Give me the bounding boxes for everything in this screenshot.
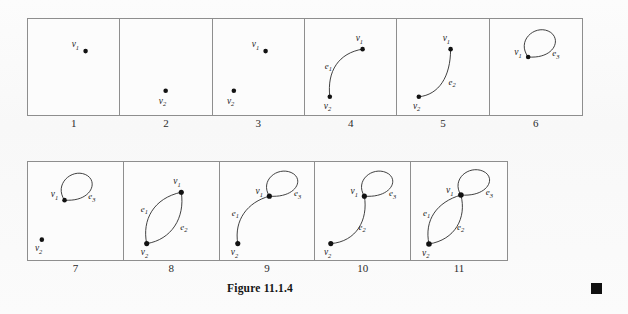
vertex-v2 — [328, 94, 333, 99]
vertex-label-v1: v1 — [443, 33, 450, 44]
panel-number-1: 1 — [28, 115, 119, 131]
bottom-row: v1 e3 v2 7 v1 v2 e1 e2 8 — [27, 161, 508, 261]
edge-label-e3: e3 — [486, 187, 494, 198]
panel-4: v1 v2 e1 4 — [305, 19, 397, 115]
panel-number-10: 10 — [315, 260, 410, 276]
vertex-label-v1: v1 — [251, 39, 258, 50]
edge-e1 — [145, 192, 181, 243]
panel-4-graph: v1 v2 e1 — [305, 19, 396, 115]
vertex-label-v1: v1 — [351, 186, 358, 197]
vertex-v1 — [263, 49, 268, 54]
vertex-label-v2: v2 — [141, 247, 149, 258]
panel-3: v1 v2 3 — [213, 19, 305, 115]
vertex-label-v2: v2 — [35, 243, 43, 254]
panel-number-9: 9 — [220, 260, 315, 276]
panel-7: v1 e3 v2 7 — [28, 162, 124, 260]
edge-label-e2: e2 — [359, 222, 367, 233]
edge-e2 — [147, 192, 182, 243]
panel-9-graph: v1 e3 v2 e1 — [220, 162, 315, 260]
vertex-label-v2: v2 — [422, 248, 430, 259]
vertex-label-v1: v1 — [72, 39, 79, 50]
panel-2: v2 2 — [120, 19, 212, 115]
edge-e3-loop — [362, 171, 393, 196]
panel-number-7: 7 — [28, 260, 123, 276]
vertex-v1 — [179, 190, 184, 195]
edge-label-e2: e2 — [180, 222, 188, 233]
panel-number-11: 11 — [411, 260, 507, 276]
edge-label-e1: e1 — [423, 208, 430, 219]
figure-caption: Figure 11.1.4 — [0, 282, 520, 294]
vertex-v2 — [235, 241, 240, 246]
panel-number-6: 6 — [490, 115, 582, 131]
edge-e1 — [428, 195, 461, 244]
edge-e3-loop — [524, 30, 555, 57]
panel-6: v1 e3 6 — [490, 19, 582, 115]
vertex-label-v1: v1 — [514, 47, 521, 59]
panel-9: v1 e3 v2 e1 9 — [220, 162, 316, 260]
edge-label-e3: e3 — [88, 191, 95, 202]
vertex-label-v2: v2 — [227, 96, 235, 107]
vertex-v2 — [164, 89, 169, 94]
edge-label-e3: e3 — [294, 188, 301, 199]
edge-label-e1: e1 — [141, 204, 148, 215]
vertex-label-v1: v1 — [356, 33, 363, 44]
end-of-proof-marker — [591, 283, 602, 294]
edge-label-e1: e1 — [325, 61, 332, 72]
edge-label-e3: e3 — [552, 48, 560, 60]
edge-e3-loop — [266, 171, 297, 196]
vertex-v1 — [360, 47, 365, 52]
edge-e2 — [331, 196, 365, 243]
panel-7-graph: v1 e3 v2 — [28, 162, 123, 260]
vertex-label-v2: v2 — [324, 247, 332, 258]
edge-label-e3: e3 — [389, 188, 396, 199]
vertex-v2 — [426, 241, 432, 247]
vertex-v1 — [62, 198, 67, 203]
panel-number-3: 3 — [213, 115, 304, 131]
edge-e2 — [419, 49, 451, 97]
vertex-v1 — [362, 194, 367, 199]
edge-e1 — [329, 49, 362, 97]
panel-11-graph: v1 e3 v2 e1 e2 — [411, 162, 507, 260]
panel-number-4: 4 — [305, 115, 396, 131]
vertex-v2 — [417, 94, 422, 99]
panel-number-5: 5 — [397, 115, 488, 131]
edge-e3-loop — [458, 170, 490, 196]
panel-number-8: 8 — [124, 260, 219, 276]
panel-8-graph: v1 v2 e1 e2 — [124, 162, 219, 260]
panel-2-graph: v2 — [120, 19, 211, 115]
vertex-v2 — [329, 241, 334, 246]
panel-5-graph: v1 v2 e2 — [397, 19, 488, 115]
edge-label-e2: e2 — [457, 222, 465, 233]
panel-1: v1 1 — [28, 19, 120, 115]
vertex-v1 — [266, 194, 271, 199]
vertex-label-v2: v2 — [324, 101, 332, 112]
panel-11: v1 e3 v2 e1 e2 11 — [411, 162, 507, 260]
top-row: v1 1 v2 2 v1 v2 3 — [27, 18, 583, 116]
vertex-label-v1: v1 — [255, 186, 262, 197]
vertex-v1 — [83, 49, 88, 54]
edge-label-e1: e1 — [231, 208, 238, 219]
edge-e1 — [237, 196, 269, 243]
vertex-label-v2: v2 — [230, 247, 238, 258]
panel-number-2: 2 — [120, 115, 211, 131]
panel-10: v1 e3 v2 e2 10 — [315, 162, 411, 260]
vertex-label-v1: v1 — [173, 176, 180, 187]
vertex-label-v2: v2 — [413, 101, 421, 112]
panel-6-graph: v1 e3 — [490, 19, 582, 115]
vertex-v2 — [144, 241, 149, 246]
vertex-v1 — [449, 47, 454, 52]
panel-3-graph: v1 v2 — [213, 19, 304, 115]
scanned-page: v1 1 v2 2 v1 v2 3 — [0, 0, 628, 314]
panel-10-graph: v1 e3 v2 e2 — [315, 162, 410, 260]
vertex-v1 — [458, 192, 464, 198]
vertex-v1 — [526, 55, 531, 60]
vertex-label-v1: v1 — [51, 189, 58, 200]
panel-8: v1 v2 e1 e2 8 — [124, 162, 220, 260]
edge-e2 — [429, 195, 462, 244]
edge-label-e2: e2 — [449, 77, 457, 88]
vertex-v2 — [231, 89, 236, 94]
vertex-label-v2: v2 — [159, 96, 167, 107]
vertex-label-v1: v1 — [446, 185, 453, 196]
vertex-v2 — [40, 237, 45, 242]
panel-1-graph: v1 — [28, 19, 119, 115]
